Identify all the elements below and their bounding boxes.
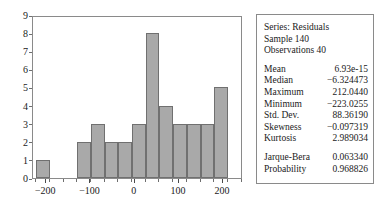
stat-value: 0.063340 — [332, 152, 368, 164]
histogram-bar — [36, 160, 50, 178]
sample-label: Sample 140 — [264, 34, 373, 46]
histogram-bar — [118, 142, 132, 178]
y-axis-tick-label: 4 — [23, 102, 28, 112]
histogram-bar — [146, 33, 160, 178]
histogram-bar — [214, 87, 228, 178]
stat-key: Probability — [264, 164, 306, 176]
statistic-row: Median−6.324473 — [264, 75, 368, 87]
y-axis-tick-label: 5 — [23, 83, 28, 93]
x-axis-minor-tick — [213, 179, 214, 182]
x-axis-minor-tick — [158, 179, 159, 182]
stat-key: Jarque-Bera — [264, 152, 310, 164]
descriptive-statistics-panel: Series: Residuals Sample 140 Observation… — [256, 14, 374, 184]
x-axis-minor-tick — [227, 179, 228, 182]
x-axis-tick-label: 200 — [215, 186, 230, 196]
histogram-bar — [173, 124, 187, 178]
x-axis-tick — [222, 179, 223, 183]
stat-value: −6.324473 — [327, 75, 368, 87]
stat-key: Mean — [264, 64, 286, 76]
stat-key: Maximum — [264, 87, 304, 99]
x-axis-minor-tick — [76, 179, 77, 182]
y-axis-tick-label: 6 — [23, 65, 28, 75]
x-axis-minor-tick — [104, 179, 105, 182]
stat-key: Kurtosis — [264, 133, 296, 145]
histogram-bar — [187, 124, 201, 178]
statistics-rows: Mean6.93e-15Median−6.324473Maximum212.04… — [264, 64, 373, 145]
x-axis-tick-label: 100 — [170, 186, 185, 196]
histogram-bar — [159, 106, 173, 178]
x-axis-minor-tick — [172, 179, 173, 182]
y-axis-tick-label: 8 — [23, 29, 28, 39]
x-axis-tick-label: 0 — [131, 186, 136, 196]
panel-spacer-1 — [264, 57, 373, 64]
y-axis-tick-label: 7 — [23, 47, 28, 57]
normality-test-rows: Jarque-Bera0.063340Probability0.968826 — [264, 152, 373, 175]
x-axis-minor-tick — [200, 179, 201, 182]
histogram-statistics-figure: 0123456789 −200−1000100200 Series: Resid… — [0, 0, 388, 204]
stat-key: Std. Dev. — [264, 110, 299, 122]
stat-key: Minimum — [264, 99, 302, 111]
statistic-row: Minimum−223.0255 — [264, 99, 368, 111]
statistic-row: Maximum212.0440 — [264, 87, 368, 99]
stat-value: 212.0440 — [332, 87, 368, 99]
x-axis-minor-tick — [49, 179, 50, 182]
x-axis-tick — [134, 179, 135, 183]
y-axis-tick-label: 2 — [23, 138, 28, 148]
plot-area — [32, 16, 242, 179]
x-axis-tick — [89, 179, 90, 183]
x-axis-tick — [178, 179, 179, 183]
x-axis-minor-tick — [241, 179, 242, 182]
x-axis-minor-tick — [63, 179, 64, 182]
y-axis: 0123456789 — [0, 0, 32, 204]
stat-value: 0.968826 — [332, 164, 368, 176]
y-axis-tick-label: 3 — [23, 120, 28, 130]
histogram-bar — [132, 124, 146, 178]
histogram-bar — [201, 124, 215, 178]
x-axis-minor-tick — [35, 179, 36, 182]
x-axis-minor-tick — [145, 179, 146, 182]
stat-value: −0.097319 — [327, 122, 368, 134]
histogram-chart: 0123456789 −200−1000100200 — [0, 0, 247, 204]
histogram-bar — [105, 142, 119, 178]
stat-value: 88.36190 — [332, 110, 368, 122]
x-axis: −200−1000100200 — [0, 179, 247, 204]
x-axis-minor-tick — [117, 179, 118, 182]
test-statistic-row: Probability0.968826 — [264, 164, 368, 176]
observations-label: Observations 40 — [264, 45, 373, 57]
stat-value: 6.93e-15 — [334, 64, 368, 76]
stat-key: Median — [264, 75, 293, 87]
y-axis-tick-label: 9 — [23, 11, 28, 21]
statistic-row: Mean6.93e-15 — [264, 64, 368, 76]
histogram-bar — [91, 124, 105, 178]
statistic-row: Skewness−0.097319 — [264, 122, 368, 134]
histogram-bar — [77, 142, 91, 178]
x-axis-tick-label: −200 — [35, 186, 56, 196]
stat-value: −223.0255 — [327, 99, 368, 111]
test-statistic-row: Jarque-Bera0.063340 — [264, 152, 368, 164]
stat-value: 2.989034 — [332, 133, 368, 145]
stat-key: Skewness — [264, 122, 301, 134]
series-name-label: Series: Residuals — [264, 22, 373, 34]
x-axis-tick — [45, 179, 46, 183]
x-axis-minor-tick — [186, 179, 187, 182]
x-axis-tick-label: −100 — [79, 186, 100, 196]
statistic-row: Std. Dev.88.36190 — [264, 110, 368, 122]
bars-container — [33, 17, 241, 178]
panel-spacer-2 — [264, 145, 373, 152]
statistic-row: Kurtosis2.989034 — [264, 133, 368, 145]
x-axis-minor-tick — [131, 179, 132, 182]
y-axis-tick-label: 1 — [23, 156, 28, 166]
